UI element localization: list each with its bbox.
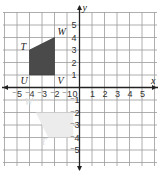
y-tick-label: ⁻4 [70, 133, 80, 143]
y-tick-label: ⁻5 [70, 145, 80, 155]
vertex-label-u: U [21, 75, 29, 86]
x-axis-label: x [150, 75, 156, 86]
y-tick-label: ⁻3 [70, 120, 80, 130]
x-tick-label: ⁻3 [37, 89, 47, 99]
axes: xy [2, 2, 158, 171]
x-tick-label: ⁻2 [50, 89, 60, 99]
y-axis-arrow-down-icon [77, 166, 82, 171]
x-axis-arrow-left-icon [3, 85, 8, 90]
x-tick-label: ⁻4 [25, 89, 35, 99]
y-tick-label: 4 [72, 33, 77, 43]
x-tick-label: 1 [90, 89, 95, 99]
x-tick-label: 4 [128, 89, 133, 99]
ghost-reflected-shape: WT [25, 96, 74, 147]
y-tick-label: 1 [72, 70, 77, 80]
vertex-label-v: V [58, 75, 66, 86]
y-axis-label: y [82, 2, 88, 13]
y-tick-label: ⁻1 [70, 95, 80, 105]
x-tick-label: 2 [103, 89, 108, 99]
coordinate-plane: WT xy ⁻5⁻4⁻3⁻2⁻101234554321⁻1⁻2⁻3⁻4⁻5 TW… [0, 0, 160, 175]
y-tick-label: 3 [72, 45, 77, 55]
x-tick-label: 5 [140, 89, 145, 99]
y-tick-label: 2 [72, 58, 77, 68]
vertex-label-w: W [58, 26, 68, 37]
y-axis-arrow-up-icon [77, 5, 82, 10]
y-tick-label: ⁻2 [70, 108, 80, 118]
x-tick-label: ⁻5 [12, 89, 22, 99]
x-tick-label: 3 [115, 89, 120, 99]
y-tick-label: 5 [72, 20, 77, 30]
